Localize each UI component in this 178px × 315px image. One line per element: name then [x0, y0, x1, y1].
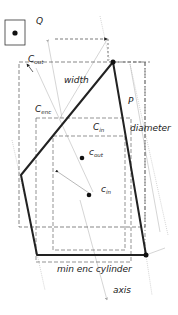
q-label: Q	[36, 16, 43, 26]
diameter-label: diameter	[130, 123, 172, 133]
q-point-icon	[12, 30, 17, 35]
c-out-point-label: cout	[89, 147, 104, 158]
axis-label: axis	[113, 285, 131, 295]
c-out-arrow	[27, 64, 33, 72]
c-in-label: Cin	[93, 122, 105, 133]
vertex-top-icon	[111, 60, 116, 65]
width-label: width	[64, 75, 89, 85]
c-in-point-label: cin	[101, 184, 111, 195]
min-enc-cylinder-label: min enc cylinder	[57, 264, 133, 274]
c-out-label: Cout	[28, 54, 44, 65]
c-in-point-icon	[87, 193, 92, 198]
geometry-diagram: Q Cout width P Cenc Cin diameter cout ci…	[0, 0, 178, 315]
q-legend: Q	[5, 16, 43, 45]
p-label: P	[128, 96, 134, 106]
c-out-point-icon	[80, 156, 85, 161]
vertex-bottom-right-icon	[144, 253, 149, 258]
c-enc-label: Cenc	[35, 104, 51, 115]
